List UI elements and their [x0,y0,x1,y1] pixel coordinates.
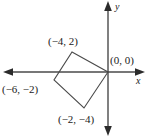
x-axis-left-arrow-icon [3,68,13,76]
square-polygon [54,52,108,108]
y-axis-top-arrow-icon [104,1,112,11]
y-axis-label: y [115,2,119,12]
coordinate-plane-figure: (−4, 2) (−6, −2) (0, 0) (−2, −4) x y [0,0,148,137]
vertex-label-top: (−4, 2) [48,36,78,47]
x-axis-label: x [136,76,140,86]
vertex-label-origin: (0, 0) [110,55,134,66]
vertex-label-bottom: (−2, −4) [58,114,94,125]
vertex-label-left: (−6, −2) [2,84,38,95]
y-axis-bottom-arrow-icon [104,126,112,136]
